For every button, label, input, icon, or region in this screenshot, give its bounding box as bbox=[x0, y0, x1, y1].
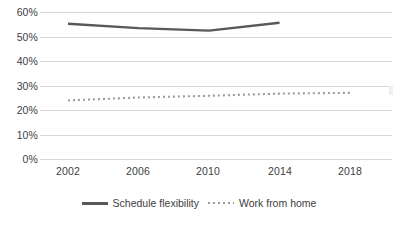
x-tick-label-2010: 2010 bbox=[183, 165, 233, 178]
legend-label-schedule-flexibility: Schedule flexibility bbox=[113, 197, 199, 209]
plot-area bbox=[40, 12, 392, 160]
y-tick-label-30: 30% bbox=[4, 81, 38, 92]
x-axis: 2002 2006 2010 2014 2018 bbox=[40, 165, 392, 181]
x-tick-label-2002: 2002 bbox=[43, 165, 93, 178]
gridline-20 bbox=[40, 110, 392, 111]
gridline-50 bbox=[40, 37, 392, 38]
gridline-10 bbox=[40, 135, 392, 136]
x-tick-label-2006: 2006 bbox=[113, 165, 163, 178]
y-tick-label-20: 20% bbox=[4, 105, 38, 116]
gridline-0-baseline bbox=[40, 159, 392, 160]
x-tick-label-2018: 2018 bbox=[325, 165, 375, 178]
dotted-line-swatch-icon bbox=[208, 198, 234, 208]
line-chart: 60% 50% 40% 30% 20% 10% 0% 2002 2006 201… bbox=[0, 0, 398, 225]
scan-artifact bbox=[389, 86, 393, 95]
chart-legend: Schedule flexibility Work from home bbox=[0, 194, 398, 212]
gridline-60 bbox=[40, 12, 392, 13]
legend-item-schedule-flexibility[interactable]: Schedule flexibility bbox=[82, 197, 199, 209]
x-tick-label-2014: 2014 bbox=[255, 165, 305, 178]
cropped-caption bbox=[28, 220, 368, 225]
y-tick-label-0: 0% bbox=[4, 154, 38, 165]
y-tick-label-60: 60% bbox=[4, 7, 38, 18]
y-axis: 60% 50% 40% 30% 20% 10% 0% bbox=[0, 0, 38, 172]
y-tick-label-40: 40% bbox=[4, 56, 38, 67]
legend-label-work-from-home: Work from home bbox=[239, 197, 316, 209]
gridline-30 bbox=[40, 86, 392, 87]
legend-item-work-from-home[interactable]: Work from home bbox=[208, 197, 316, 209]
solid-line-swatch-icon bbox=[82, 198, 108, 208]
gridline-40 bbox=[40, 61, 392, 62]
y-tick-label-10: 10% bbox=[4, 130, 38, 141]
y-tick-label-50: 50% bbox=[4, 32, 38, 43]
